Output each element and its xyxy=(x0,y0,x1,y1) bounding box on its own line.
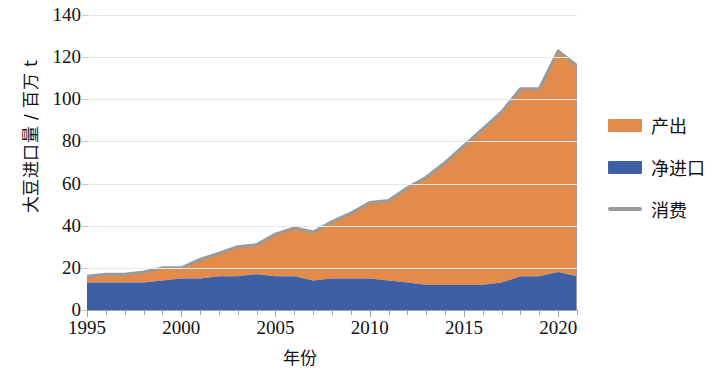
legend-label: 产出 xyxy=(651,112,687,138)
x-axis-tick-mark xyxy=(106,310,107,315)
legend-label: 净进口 xyxy=(651,154,705,180)
y-axis-tick-label: 120 xyxy=(35,47,81,66)
legend-color-swatch-icon xyxy=(608,161,642,174)
y-axis-tick-label: 80 xyxy=(35,131,81,150)
x-axis-tick-mark xyxy=(370,310,371,317)
x-axis-tick-mark xyxy=(539,310,540,315)
y-axis-tick-mark xyxy=(82,15,88,16)
x-axis-tick-label: 2015 xyxy=(429,317,499,339)
x-axis-tick-label: 2010 xyxy=(335,317,405,339)
soybean-area-chart: 大豆进口量 / 百万 t 年份 020406080100120140 产出净进口… xyxy=(0,0,712,374)
y-axis-tick-mark xyxy=(82,99,88,100)
y-axis-tick-mark xyxy=(82,184,88,185)
chart-legend: 产出净进口消费 xyxy=(608,104,712,230)
y-axis-tick-label: 140 xyxy=(35,5,81,24)
x-axis-tick-mark xyxy=(144,310,145,315)
x-axis-tick-mark xyxy=(275,310,276,317)
gridline xyxy=(87,141,577,142)
gridline xyxy=(87,57,577,58)
x-axis-tick-mark xyxy=(200,310,201,315)
gridline xyxy=(87,15,577,16)
x-axis-title: 年份 xyxy=(0,344,600,369)
y-axis-tick-label: 60 xyxy=(35,174,81,193)
x-axis-tick-mark xyxy=(238,310,239,315)
x-axis-tick-mark xyxy=(520,310,521,315)
legend-item[interactable]: 产出 xyxy=(608,104,712,146)
x-axis-tick-mark xyxy=(125,310,126,315)
x-axis-tick-mark xyxy=(577,310,578,315)
y-axis-tick-label: 20 xyxy=(35,258,81,277)
gridline xyxy=(87,268,577,269)
x-axis-tick-mark xyxy=(426,310,427,315)
x-axis-tick-mark xyxy=(181,310,182,317)
x-axis-tick-label: 2020 xyxy=(523,317,593,339)
y-axis-tick-label: 100 xyxy=(35,89,81,108)
area-series-svg xyxy=(87,15,577,310)
x-axis-tick-mark xyxy=(332,310,333,315)
plot-area xyxy=(87,15,577,310)
x-axis-tick-mark xyxy=(294,310,295,315)
x-axis-tick-label: 2000 xyxy=(146,317,216,339)
x-axis-tick-mark xyxy=(445,310,446,315)
y-axis-tick-mark xyxy=(82,57,88,58)
x-axis-tick-mark xyxy=(162,310,163,315)
x-axis-tick-mark xyxy=(483,310,484,315)
x-axis-tick-mark xyxy=(558,310,559,317)
x-axis-tick-mark xyxy=(464,310,465,317)
legend-item[interactable]: 消费 xyxy=(608,188,712,230)
x-axis-tick-mark xyxy=(313,310,314,315)
x-axis-tick-label: 2005 xyxy=(240,317,310,339)
legend-color-swatch-icon xyxy=(608,119,642,132)
x-axis-tick-mark xyxy=(257,310,258,315)
y-axis-tick-labels: 020406080100120140 xyxy=(33,15,81,310)
x-axis-tick-mark xyxy=(351,310,352,315)
gridline xyxy=(87,99,577,100)
legend-line-swatch-icon xyxy=(608,207,642,211)
y-axis-tick-mark xyxy=(82,268,88,269)
y-axis-tick-label: 40 xyxy=(35,216,81,235)
legend-item[interactable]: 净进口 xyxy=(608,146,712,188)
gridline xyxy=(87,226,577,227)
x-axis-tick-mark xyxy=(407,310,408,315)
x-axis-tick-mark xyxy=(389,310,390,315)
y-axis-tick-mark xyxy=(82,226,88,227)
x-axis-tick-mark xyxy=(219,310,220,315)
gridline xyxy=(87,184,577,185)
y-axis-tick-mark xyxy=(82,141,88,142)
legend-label: 消费 xyxy=(651,196,687,222)
x-axis-tick-label: 1995 xyxy=(52,317,122,339)
x-axis-tick-mark xyxy=(502,310,503,315)
area-output xyxy=(87,51,577,285)
x-axis-tick-mark xyxy=(87,310,88,317)
